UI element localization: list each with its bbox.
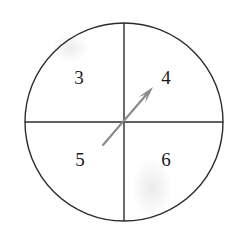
quadrant-label-5: 5: [75, 149, 85, 170]
arrow-shaft: [103, 93, 148, 145]
quadrant-label-4: 4: [161, 67, 171, 88]
quadrant-circle-diagram: 3 4 5 6: [0, 0, 233, 237]
quadrant-label-6: 6: [161, 149, 171, 170]
quadrant-label-3: 3: [74, 67, 84, 88]
figure-container: 3 4 5 6: [0, 0, 233, 237]
vector-arrow: [103, 87, 153, 145]
